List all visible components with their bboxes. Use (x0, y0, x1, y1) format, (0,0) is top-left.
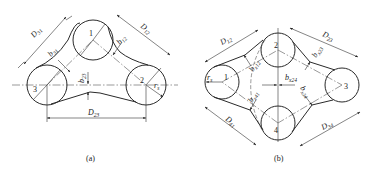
d31-label: D31 (28, 25, 44, 41)
d12-dimension-line (205, 30, 258, 62)
belt-41-outer (214, 97, 263, 130)
wheel-3-label: 3 (33, 85, 37, 94)
bx41-label: bx41 (246, 89, 261, 105)
d31-ext-2 (66, 16, 72, 20)
wheel-2-label: 2 (274, 41, 278, 50)
wheel-3-radius-2 (47, 70, 60, 85)
wheel-4-label: 4 (274, 126, 278, 135)
panel-b: D12 D23 D34 D41 bx12 bx23 bx34 bx41 bx24… (205, 28, 360, 163)
d31-ext-1 (18, 62, 24, 68)
d41-label: D41 (222, 114, 238, 129)
bx23-label: bx23 (310, 44, 325, 60)
b31-label: b31 (46, 45, 60, 59)
belt-12-outer (108, 27, 148, 65)
panel-a: D31 D12 D23 b31 b12 b23 rs 1 2 3 (a) (12, 15, 178, 163)
bx23-arrow (305, 62, 310, 70)
wheel-1-radius (93, 24, 105, 40)
centerline-1-2 (93, 40, 146, 85)
wheel-3-label: 3 (344, 82, 348, 91)
wheel-1-label: 1 (89, 29, 93, 38)
d12-label: D12 (218, 33, 234, 48)
b12-label: b12 (115, 33, 129, 47)
d23-label: D23 (320, 29, 336, 43)
rs-label-b: rs (207, 73, 212, 83)
bx24-label: bx24 (285, 73, 297, 83)
d12-label: D12 (137, 21, 153, 37)
wheel-1-radius-2 (80, 40, 93, 56)
centerline-3-4 (278, 85, 342, 123)
d31-dimension-line (24, 17, 66, 64)
caption-a: (a) (86, 154, 95, 163)
wheel-1-label: 1 (224, 73, 228, 82)
figure-canvas: D31 D12 D23 b31 b12 b23 rs 1 2 3 (a) (0, 0, 368, 176)
caption-b: (b) (274, 154, 284, 163)
belt-23-lower (51, 92, 136, 104)
bx34-label: bx34 (297, 84, 312, 100)
bx12-arrow (244, 55, 251, 66)
b23-label: b23 (77, 73, 87, 83)
d23-label: D23 (87, 108, 100, 118)
rs-label-a: rs (154, 81, 159, 91)
wheel-2-label: 2 (140, 76, 144, 85)
